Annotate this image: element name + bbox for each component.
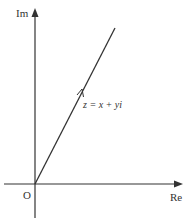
origin-label: O	[23, 189, 31, 201]
real-axis-arrowhead-icon	[174, 181, 183, 188]
imaginary-axis-label: Im	[16, 7, 29, 19]
real-axis-label: Re	[170, 191, 182, 203]
imaginary-axis-arrowhead-icon	[32, 8, 39, 17]
argand-diagram: Im Re O z = x + yi	[0, 0, 189, 222]
vector-label: z = x + yi	[82, 99, 122, 110]
